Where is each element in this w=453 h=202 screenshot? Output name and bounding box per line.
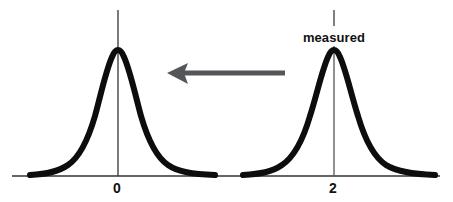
diagram-canvas [0,0,453,202]
curve-measured-distribution [243,50,435,175]
x-tick-label-two: 2 [329,181,337,195]
x-tick-label-zero: 0 [113,181,121,195]
gaussian-shift-diagram: 0 2 measured [0,0,453,202]
measured-annotation-label: measured [303,31,365,44]
curve-true-distribution [30,50,215,175]
